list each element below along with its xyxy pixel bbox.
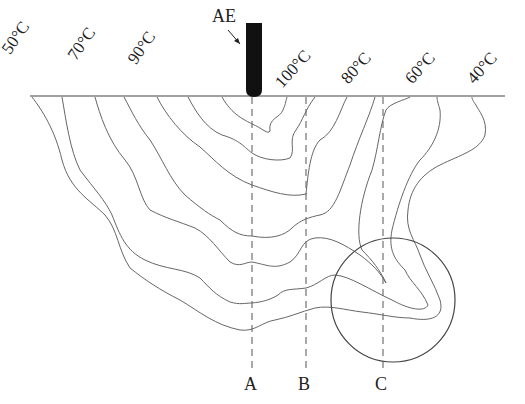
isotherm-40	[32, 97, 486, 330]
figure: AE 50°C 70°C 90°C 100°C 80°C 60°C 40°C A…	[0, 0, 525, 404]
isotherm-100	[222, 97, 287, 132]
isotherms	[32, 97, 486, 330]
electrode-icon	[246, 23, 262, 97]
section-label-c: C	[375, 374, 387, 395]
arrow-head-icon	[234, 38, 240, 44]
section-label-a: A	[244, 374, 257, 395]
electrode-label: AE	[212, 6, 236, 27]
section-label-b: B	[298, 374, 310, 395]
